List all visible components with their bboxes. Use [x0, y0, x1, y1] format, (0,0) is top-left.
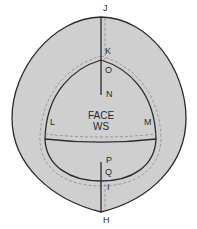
label-q: Q: [105, 168, 112, 177]
label-k: K: [105, 47, 111, 56]
face-label-line2: WS: [81, 121, 121, 132]
label-l: L: [50, 118, 55, 127]
label-p: P: [106, 156, 112, 165]
label-h: H: [103, 216, 110, 225]
face-label-line1: FACE: [81, 110, 121, 121]
face-label: FACE WS: [81, 110, 121, 132]
label-o: O: [105, 66, 112, 75]
label-i: I: [107, 183, 110, 192]
label-n: N: [106, 90, 113, 99]
label-m: M: [144, 118, 152, 127]
label-j: J: [103, 4, 108, 13]
